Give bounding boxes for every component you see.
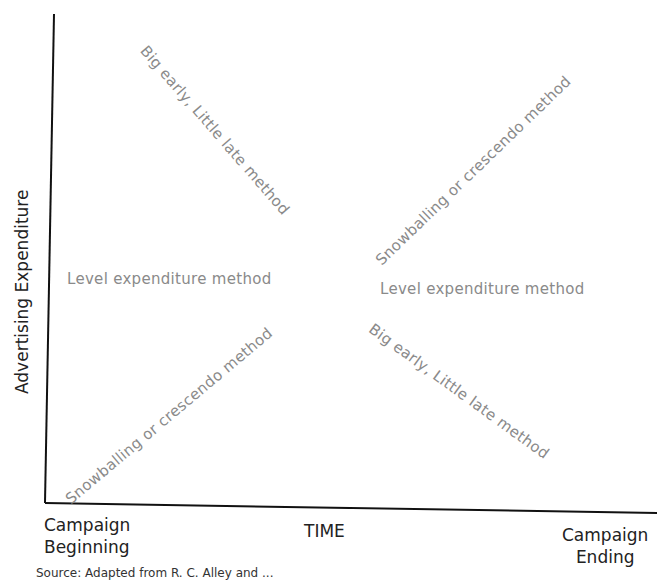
label-level-right: Level expenditure method [380, 280, 585, 298]
x-end-label: Campaign Ending [562, 524, 648, 568]
x-end-label-line1: Campaign [562, 524, 648, 546]
x-start-label-line2: Beginning [44, 536, 130, 558]
x-start-label-line1: Campaign [44, 514, 130, 536]
y-axis-line [45, 14, 54, 503]
x-end-label-line2: Ending [562, 546, 648, 568]
x-axis-line [45, 503, 657, 513]
y-axis-label: Advertising Expenditure [12, 190, 32, 394]
x-axis-label: TIME [304, 520, 345, 542]
label-level-left: Level expenditure method [67, 270, 272, 288]
source-note: Source: Adapted from R. C. Alley and ... [36, 566, 273, 580]
x-start-label: Campaign Beginning [44, 514, 130, 558]
